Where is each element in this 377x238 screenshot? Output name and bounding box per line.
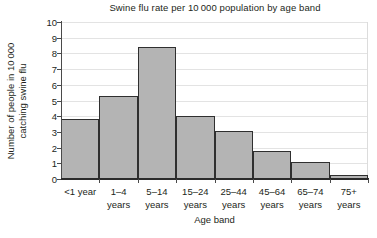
x-axis-category-label: 75+years <box>330 186 368 211</box>
x-axis-category-label: <1 year <box>61 186 99 199</box>
x-axis-category-line1: 75+ <box>341 186 357 197</box>
x-axis-category-line1: 15–24 <box>182 186 208 197</box>
x-axis-category-line1: 1–4 <box>111 186 127 197</box>
chart-figure: Swine flu rate per 10 000 population by … <box>0 0 377 238</box>
y-axis-tick <box>57 163 61 164</box>
y-axis-tick <box>57 38 61 39</box>
x-axis-category-line2: years <box>215 199 253 212</box>
y-axis-tick-label: 6 <box>0 79 57 90</box>
x-axis-category-line1: <1 year <box>64 186 96 197</box>
x-axis-category-line2: years <box>291 199 329 212</box>
x-axis-category-line2: years <box>176 199 214 212</box>
y-axis-tick-label: 8 <box>0 48 57 59</box>
y-axis-line <box>61 21 62 180</box>
x-axis-tick <box>330 179 331 183</box>
y-axis-tick-label: 10 <box>0 17 57 28</box>
gridline <box>61 69 367 70</box>
x-axis-category-label: 1–4years <box>99 186 137 211</box>
x-axis-category-line1: 5–14 <box>146 186 167 197</box>
x-axis-tick <box>99 179 100 183</box>
x-axis-category-label: 25–44years <box>215 186 253 211</box>
x-axis-category-line2: years <box>330 199 368 212</box>
bar[interactable] <box>253 151 291 179</box>
y-axis-tick <box>57 69 61 70</box>
x-axis-category-line1: 65–74 <box>297 186 323 197</box>
y-axis-tick-label: 0 <box>0 174 57 185</box>
gridline <box>61 38 367 39</box>
y-axis-tick-label: 1 <box>0 158 57 169</box>
x-axis-tick <box>215 179 216 183</box>
bar[interactable] <box>215 131 253 179</box>
x-axis-tick <box>368 179 369 183</box>
y-axis-tick-label: 9 <box>0 32 57 43</box>
y-axis-tick <box>57 22 61 23</box>
bar[interactable] <box>138 47 176 179</box>
bar[interactable] <box>291 162 329 179</box>
y-axis-tick <box>57 85 61 86</box>
plot-area <box>61 22 368 179</box>
x-axis-tick <box>291 179 292 183</box>
x-axis-category-line2: years <box>138 199 176 212</box>
y-axis-tick-label: 2 <box>0 142 57 153</box>
bar[interactable] <box>61 119 99 179</box>
x-axis-title: Age band <box>61 214 368 225</box>
y-axis-tick <box>57 53 61 54</box>
y-axis-tick-label: 4 <box>0 111 57 122</box>
y-axis-tick <box>57 132 61 133</box>
bar[interactable] <box>176 116 214 179</box>
y-axis-tick <box>57 116 61 117</box>
gridline <box>61 85 367 86</box>
x-axis-tick <box>138 179 139 183</box>
x-axis-category-label: 65–74years <box>291 186 329 211</box>
y-axis-tick <box>57 148 61 149</box>
x-axis-category-label: 45–64years <box>253 186 291 211</box>
y-axis-tick <box>57 179 61 180</box>
x-axis-category-line2: years <box>253 199 291 212</box>
y-axis-tick-label: 7 <box>0 64 57 75</box>
gridline <box>61 53 367 54</box>
x-axis-category-label: 15–24years <box>176 186 214 211</box>
x-axis-tick <box>176 179 177 183</box>
x-axis-category-line1: 45–64 <box>259 186 285 197</box>
x-axis-category-label: 5–14years <box>138 186 176 211</box>
y-axis-tick <box>57 101 61 102</box>
x-axis-category-line2: years <box>99 199 137 212</box>
x-axis-category-line1: 25–44 <box>220 186 246 197</box>
y-axis-tick-label: 3 <box>0 126 57 137</box>
y-axis-tick-label: 5 <box>0 95 57 106</box>
x-axis-tick <box>253 179 254 183</box>
gridline <box>61 22 367 23</box>
bar[interactable] <box>99 96 137 179</box>
chart-title: Swine flu rate per 10 000 population by … <box>60 2 370 13</box>
